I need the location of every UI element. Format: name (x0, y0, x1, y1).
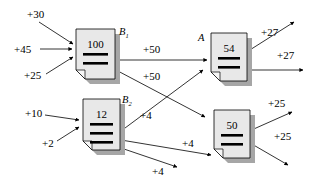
document-text-bar (218, 66, 240, 69)
edge-label-in-25: +25 (24, 69, 42, 81)
document-text-bar (90, 132, 113, 135)
edge-b1-d50-50 (116, 70, 205, 117)
edge-line (121, 148, 177, 167)
edge-label-d50-out-25a: +25 (268, 97, 286, 109)
edge-label-in-45: +45 (14, 43, 32, 55)
node-name-main: A (197, 32, 205, 43)
edge-label-b1-a-50: +50 (143, 43, 161, 55)
document-value: 100 (87, 38, 104, 50)
document-text-bar (90, 123, 113, 126)
document-text-bar (83, 53, 108, 56)
edge-line (39, 22, 73, 44)
edge-in-10 (45, 115, 79, 120)
document-node-b1[interactable]: 100 (76, 29, 120, 84)
diagram-svg: 100541250 +30+45+25+50+50+4+4+4+10+2+27+… (0, 0, 311, 194)
document-fold-corner (214, 149, 223, 158)
edge-line (57, 127, 79, 141)
document-fold-corner (211, 72, 220, 81)
node-name-label-b1: B1 (119, 26, 129, 39)
edge-line (116, 70, 205, 117)
document-text-bar (218, 57, 240, 60)
edge-label-b2-right-4b: +4 (152, 165, 164, 177)
document-text-bar (83, 62, 108, 65)
edge-in-25 (46, 57, 73, 74)
node-name-subscript: 1 (125, 32, 128, 39)
edge-label-in-2: +2 (42, 137, 54, 149)
document-text-bar (221, 134, 243, 137)
document-fold-corner (76, 70, 85, 79)
edge-b2-right-4b (121, 148, 177, 167)
diagram-canvas: 100541250 +30+45+25+50+50+4+4+4+10+2+27+… (0, 0, 311, 194)
document-value: 50 (227, 119, 239, 131)
document-node-d50[interactable]: 50 (214, 110, 255, 163)
edge-in-30 (39, 22, 73, 44)
edge-label-d50-out-25b: +25 (274, 130, 292, 142)
document-text-bar (90, 141, 113, 144)
node-name-label-a: A (197, 32, 205, 43)
edge-label-in-10: +10 (25, 107, 43, 119)
edge-label-a-out-27a: +27 (261, 26, 279, 38)
document-node-a[interactable]: 54 (211, 33, 252, 86)
edge-line (45, 115, 79, 120)
edge-label-b2-right-4a: +4 (182, 137, 194, 149)
edge-label-b1-d50-50: +50 (143, 70, 161, 82)
document-value: 54 (224, 42, 236, 54)
node-name-subscript: 2 (128, 100, 132, 107)
edge-label-a-out-27b: +27 (277, 49, 295, 61)
edge-in-2 (57, 127, 79, 141)
document-value: 12 (96, 108, 107, 120)
edge-line (46, 57, 73, 74)
edge-label-b2-a-4: +4 (140, 109, 152, 121)
document-node-b2[interactable]: 12 (83, 99, 125, 155)
document-text-bar (221, 143, 243, 146)
edge-label-in-30: +30 (27, 8, 45, 20)
